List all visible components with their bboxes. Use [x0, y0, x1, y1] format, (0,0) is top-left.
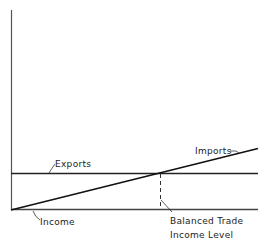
balanced-trade-label-line1: Balanced Trade [170, 216, 243, 226]
imports-label: Imports [195, 146, 232, 156]
balanced-trade-label-line2: Income Level [170, 230, 233, 240]
income-label: Income [40, 217, 75, 227]
balanced-trade-leader [161, 200, 172, 212]
exports-label: Exports [55, 159, 91, 169]
trade-balance-diagram: Exports Imports Income Balanced Trade In… [0, 0, 266, 248]
imports-line [11, 149, 258, 211]
income-leader [33, 211, 40, 220]
